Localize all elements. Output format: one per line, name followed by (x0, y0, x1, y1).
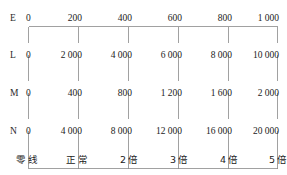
tick-label-n-4: 12 000 (139, 126, 182, 136)
caption-pre-2: 正 (64, 154, 76, 165)
tick-label-e-6: 1 000 (243, 13, 279, 23)
tick-label-l-3: 4 000 (94, 50, 132, 60)
caption-post-3: 倍 (128, 154, 140, 165)
tick-label-m-4: 1 200 (144, 88, 182, 98)
row-label-l: L (10, 50, 16, 60)
tick-label-n-6: 20 000 (236, 126, 279, 136)
caption-post-1: 线 (28, 154, 40, 165)
caption-pre-4: 3 (164, 154, 176, 165)
nomogram-figure: E 0 200 400 600 800 1 000 L 0 2 000 4 00… (0, 0, 287, 175)
tick-label-l-6: 10 000 (236, 50, 279, 60)
caption-pre-6: 5 (263, 154, 275, 165)
tick-label-l-5: 8 000 (194, 50, 232, 60)
row-label-n: N (10, 126, 17, 136)
caption-pre-5: 4 (214, 154, 226, 165)
tick-label-m-2: 400 (48, 88, 82, 98)
caption-cell-3: 2倍 (114, 154, 140, 165)
tick-label-m-5: 1 600 (194, 88, 232, 98)
row-label-m: M (10, 88, 18, 98)
tick-label-e-5: 800 (198, 13, 232, 23)
caption-cell-4: 3倍 (164, 154, 190, 165)
tick-label-n-3: 8 000 (94, 126, 132, 136)
caption-cell-2: 正常 (64, 154, 90, 165)
caption-cell-5: 4倍 (214, 154, 240, 165)
tick-label-l-4: 6 000 (144, 50, 182, 60)
caption-cell-1: 零线 (14, 154, 40, 165)
tick-label-m-6: 2 000 (240, 88, 279, 98)
caption-post-5: 倍 (228, 154, 240, 165)
caption-pre-3: 2 (114, 154, 126, 165)
tick-label-n-5: 16 000 (189, 126, 232, 136)
tick-label-m-3: 800 (98, 88, 132, 98)
caption-post-2: 常 (78, 154, 90, 165)
tick-label-l-2: 2 000 (44, 50, 82, 60)
caption-post-4: 倍 (178, 154, 190, 165)
tick-label-n-2: 4 000 (44, 126, 82, 136)
tick-label-e-4: 600 (148, 13, 182, 23)
caption-post-6: 倍 (277, 154, 287, 165)
tick-label-e-3: 400 (98, 13, 132, 23)
caption-cell-6: 5倍 (263, 154, 287, 165)
caption-pre-1: 零 (14, 154, 26, 165)
tick-label-e-2: 200 (48, 13, 82, 23)
row-label-e: E (10, 13, 16, 23)
